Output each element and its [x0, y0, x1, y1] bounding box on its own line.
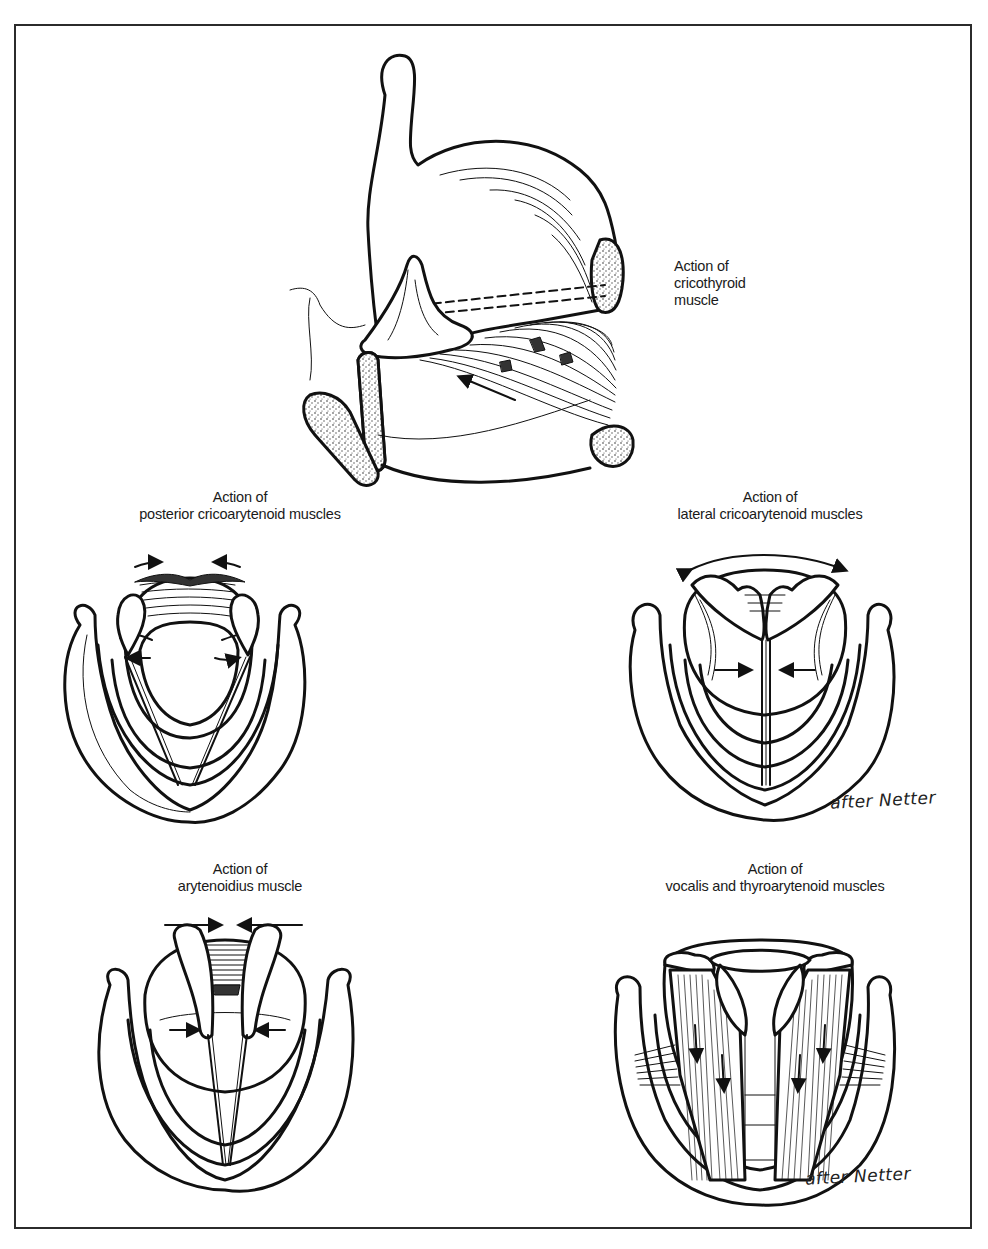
cricothyroid-illustration [290, 40, 640, 500]
arytenoidius-illustration [80, 910, 360, 1200]
cricothyroid-label: Action of cricothyroid muscle [674, 258, 746, 309]
vocalis-thyroarytenoid-label: Action of vocalis and thyroarytenoid mus… [620, 861, 930, 895]
lateral-cricoarytenoid-label: Action of lateral cricoarytenoid muscles [620, 489, 920, 523]
posterior-cricoarytenoid-label: Action of posterior cricoarytenoid muscl… [90, 489, 390, 523]
posterior-cricoarytenoid-illustration [40, 560, 330, 840]
arytenoidius-label: Action of arytenoidius muscle [90, 861, 390, 895]
